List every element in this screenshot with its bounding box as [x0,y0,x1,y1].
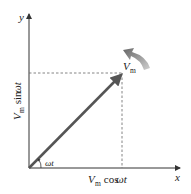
angle-label: ωt [45,158,54,168]
angle-arc-icon [39,160,41,168]
svg-text:m: m [130,66,136,75]
x-axis-label: x [174,171,180,183]
svg-text:ωt: ωt [116,173,128,185]
x-projection-label: V m cos ωt [88,173,128,188]
phasor-diagram: y x V m ωt V m cos ωt V m sin ωt [0,0,191,194]
svg-text:ωt: ωt [11,81,23,93]
y-projection-label: V m sin ωt [11,81,26,120]
phasor-label: V m [123,60,136,75]
y-axis-label: y [18,11,24,23]
phasor-vector [29,75,121,168]
